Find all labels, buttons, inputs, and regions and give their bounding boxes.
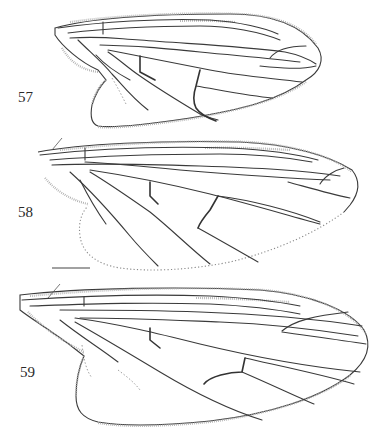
wing-57-drawing <box>0 0 392 444</box>
wing-59 <box>20 284 368 426</box>
figure-label-59: 59 <box>20 364 35 381</box>
figure-plate: 57 58 59 <box>0 0 392 444</box>
wing-57 <box>55 13 321 127</box>
figure-label-57: 57 <box>18 89 33 106</box>
wing-58 <box>38 138 358 270</box>
figure-label-58: 58 <box>18 204 33 221</box>
